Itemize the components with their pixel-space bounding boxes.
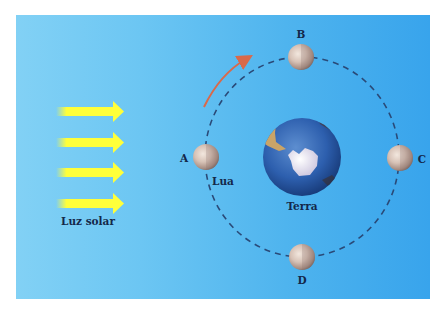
moon-position-a: A — [179, 144, 219, 170]
position-label-b: B — [297, 28, 306, 40]
sunlight-arrow-icon — [56, 132, 124, 153]
moon-phases-diagram: Luz solar Terra A Lua B C D — [0, 0, 447, 314]
sunlight-arrows — [56, 101, 124, 214]
sunlight-arrow-icon — [56, 101, 124, 122]
position-label-c: C — [418, 153, 426, 165]
sunlight-label: Luz solar — [61, 215, 115, 227]
orbit-direction-arrow-icon — [204, 59, 246, 107]
moon-position-c: C — [387, 145, 426, 171]
moon-position-b: B — [288, 28, 314, 70]
earth-label: Terra — [286, 200, 317, 212]
sunlight-arrow-icon — [56, 162, 124, 183]
sunlight-arrow-icon — [56, 193, 124, 214]
position-label-d: D — [297, 274, 306, 286]
earth-icon — [262, 118, 341, 196]
position-label-a: A — [179, 152, 189, 164]
moon-position-d: D — [289, 244, 315, 286]
moon-label: Lua — [212, 175, 234, 187]
